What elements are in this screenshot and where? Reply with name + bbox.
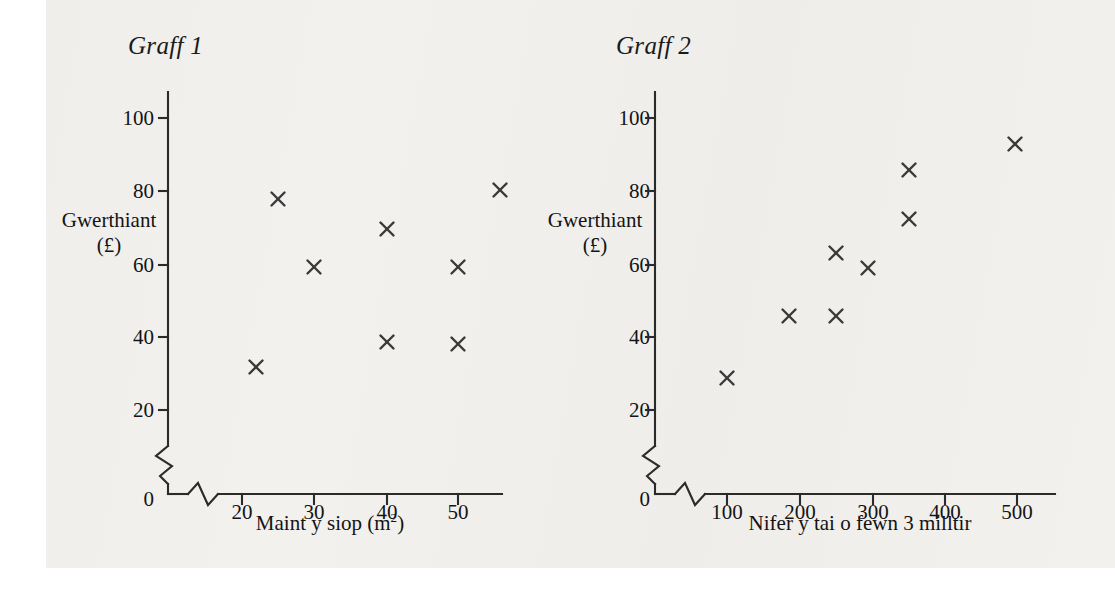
page-bottom-margin [0, 568, 1115, 595]
data-point-group [721, 138, 1022, 385]
data-point-marker [452, 261, 465, 274]
data-point-marker [308, 261, 321, 274]
data-point-marker [1009, 138, 1022, 151]
data-point-marker [903, 164, 916, 177]
data-point-marker [381, 223, 394, 236]
data-point-group [250, 184, 507, 374]
plot-area-graff-2 [590, 0, 1110, 568]
data-point-marker [381, 336, 394, 349]
data-point-marker [830, 247, 843, 260]
y-axis-break-zigzag [156, 446, 172, 484]
data-point-marker [721, 372, 734, 385]
y-axis-break-zigzag [643, 446, 659, 484]
data-point-marker [783, 310, 796, 323]
data-point-marker [494, 184, 507, 197]
data-point-marker [862, 262, 875, 275]
data-point-marker [452, 338, 465, 351]
x-axis-break-zigzag [675, 483, 705, 505]
scatter-chart-graff-1: Graff 1 Gwerthiant (£) Maint y siop (m2)… [60, 0, 580, 568]
figure-page: Graff 1 Gwerthiant (£) Maint y siop (m2)… [0, 0, 1115, 595]
data-point-marker [903, 213, 916, 226]
plot-area-graff-1 [60, 0, 580, 568]
data-point-marker [250, 361, 263, 374]
data-point-marker [830, 310, 843, 323]
data-point-marker [272, 193, 285, 206]
scatter-chart-graff-2: Graff 2 Gwerthiant (£) Nifer y tai o few… [590, 0, 1110, 568]
x-axis-break-zigzag [188, 483, 218, 505]
